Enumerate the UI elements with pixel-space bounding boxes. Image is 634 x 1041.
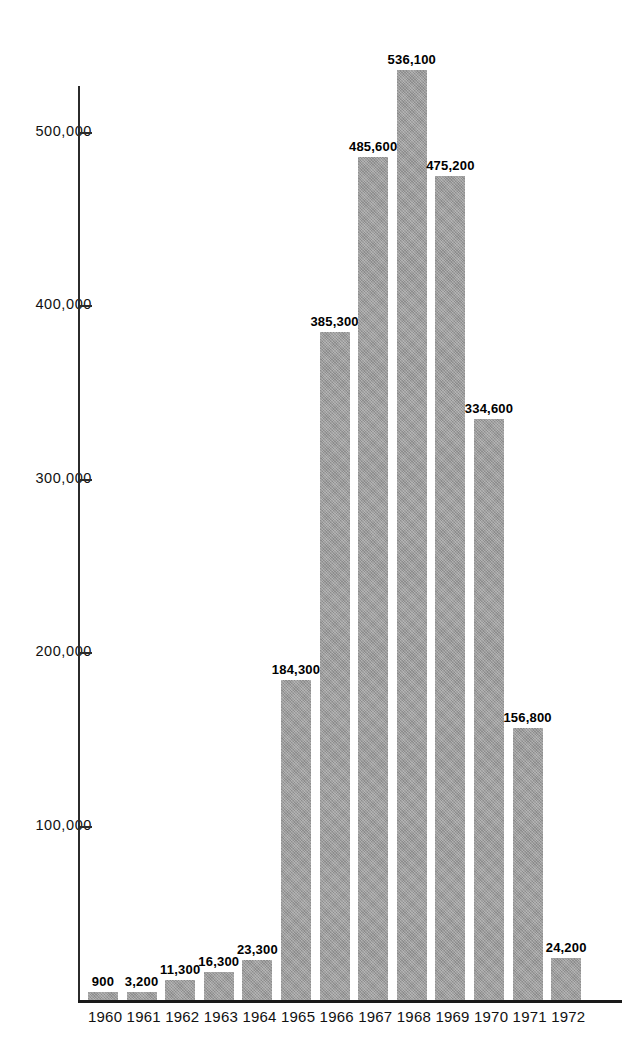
bar-1972[interactable]: 24,200 [551, 958, 581, 1000]
bar-value-label-1971: 156,800 [503, 710, 551, 725]
bar-value-label-1964: 23,300 [237, 942, 278, 957]
bar-1960[interactable]: 900 [88, 992, 118, 1000]
bar-1962[interactable]: 11,300 [165, 980, 195, 1000]
bar-1971[interactable]: 156,800 [513, 728, 543, 1000]
x-axis-label-1960: 1960 [88, 1008, 118, 1025]
bar-rect [513, 728, 543, 1000]
x-axis-label-1962: 1962 [165, 1008, 195, 1025]
bar-value-label-1961: 3,200 [125, 974, 159, 989]
x-axis-label-1965: 1965 [281, 1008, 311, 1025]
bar-value-label-1963: 16,300 [198, 954, 239, 969]
bar-value-label-1972: 24,200 [546, 940, 587, 955]
bar-1963[interactable]: 16,300 [204, 972, 234, 1000]
bar-value-label-1969: 475,200 [426, 158, 474, 173]
bar-value-label-1960: 900 [92, 974, 114, 989]
x-axis-label-1967: 1967 [358, 1008, 388, 1025]
x-axis-label-1972: 1972 [551, 1008, 581, 1025]
bar-value-label-1962: 11,300 [160, 962, 200, 977]
bar-rect [127, 992, 157, 1000]
bar-rect [281, 680, 311, 1000]
bar-1970[interactable]: 334,600 [474, 419, 504, 1000]
bar-rect [242, 960, 272, 1000]
x-axis-label-1963: 1963 [204, 1008, 234, 1025]
bar-rect [204, 972, 234, 1000]
bar-rect [435, 176, 465, 1000]
bar-rect [551, 958, 581, 1000]
x-axis-label-1969: 1969 [435, 1008, 465, 1025]
x-axis-label-1964: 1964 [242, 1008, 272, 1025]
bar-1969[interactable]: 475,200 [435, 176, 465, 1000]
bar-value-label-1967: 485,600 [349, 139, 397, 154]
bar-1967[interactable]: 485,600 [358, 157, 388, 1000]
bar-value-label-1966: 385,300 [310, 314, 358, 329]
bar-chart: 100,000 200,000 300,000 400,000 500,000 … [0, 0, 634, 1041]
bar-value-label-1970: 334,600 [465, 401, 513, 416]
x-axis-label-1961: 1961 [127, 1008, 157, 1025]
x-axis-label-1970: 1970 [474, 1008, 504, 1025]
bar-rect [358, 157, 388, 1000]
bar-1966[interactable]: 385,300 [320, 332, 350, 1000]
bar-rect [165, 980, 195, 1000]
bar-1961[interactable]: 3,200 [127, 992, 157, 1000]
bar-value-label-1965: 184,300 [272, 662, 320, 677]
bar-rect [88, 992, 118, 1000]
bar-rect [474, 419, 504, 1000]
bars-layer: 90019603,200196111,300196216,300196323,3… [0, 0, 634, 1041]
bar-value-label-1968: 536,100 [388, 52, 436, 67]
bar-1968[interactable]: 536,100 [397, 70, 427, 1000]
x-axis-label-1971: 1971 [513, 1008, 543, 1025]
bar-1964[interactable]: 23,300 [242, 960, 272, 1000]
bar-rect [320, 332, 350, 1000]
x-axis-label-1968: 1968 [397, 1008, 427, 1025]
x-axis-label-1966: 1966 [320, 1008, 350, 1025]
bar-rect [397, 70, 427, 1000]
bar-1965[interactable]: 184,300 [281, 680, 311, 1000]
